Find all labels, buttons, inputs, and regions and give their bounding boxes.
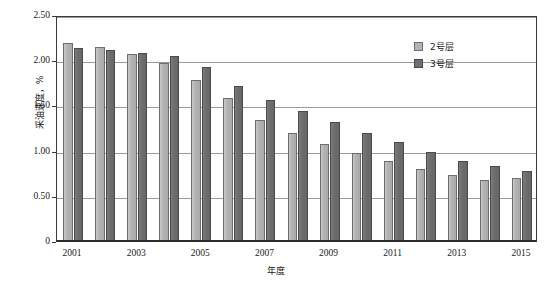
bar-2007-series1 bbox=[255, 120, 265, 241]
bar-2015-series2 bbox=[522, 171, 532, 241]
x-tick-label: 2007 bbox=[242, 248, 286, 258]
bar-2005-series1 bbox=[191, 80, 201, 241]
y-tick-label: 0 bbox=[8, 237, 50, 247]
y-tick-label: 2.00 bbox=[8, 56, 50, 66]
x-tick-label: 2001 bbox=[50, 248, 94, 258]
bar-2007-series2 bbox=[266, 100, 276, 241]
bar-2008-series1 bbox=[288, 133, 298, 241]
x-tick-label: 2005 bbox=[178, 248, 222, 258]
legend-swatch-icon bbox=[414, 59, 423, 68]
x-tick-label: 2009 bbox=[307, 248, 351, 258]
legend-item-label: 3号层 bbox=[430, 57, 454, 70]
bar-2010-series1 bbox=[352, 153, 362, 241]
bar-2003-series1 bbox=[127, 54, 137, 241]
bar-2011-series1 bbox=[384, 161, 394, 241]
y-tick-label: 0.50 bbox=[8, 192, 50, 202]
legend-swatch-icon bbox=[414, 42, 423, 51]
bar-2002-series1 bbox=[95, 47, 105, 241]
bar-2006-series2 bbox=[234, 86, 244, 241]
bar-2004-series2 bbox=[170, 56, 180, 241]
bar-2013-series1 bbox=[448, 175, 458, 241]
bar-2010-series2 bbox=[362, 133, 372, 241]
bar-2014-series2 bbox=[490, 166, 500, 241]
bar-2013-series2 bbox=[458, 161, 468, 241]
x-tick-label: 2013 bbox=[435, 248, 479, 258]
bar-2001-series1 bbox=[63, 43, 73, 241]
bar-2011-series2 bbox=[394, 142, 404, 241]
bar-2012-series2 bbox=[426, 152, 436, 241]
bar-2003-series2 bbox=[138, 53, 148, 241]
bar-2014-series1 bbox=[480, 180, 490, 241]
x-tick-label: 2011 bbox=[371, 248, 415, 258]
bar-2008-series2 bbox=[298, 111, 308, 241]
bar-2009-series1 bbox=[320, 144, 330, 241]
bar-2005-series2 bbox=[202, 67, 212, 241]
bar-2006-series1 bbox=[223, 98, 233, 241]
bar-2002-series2 bbox=[106, 50, 116, 241]
y-tick-label: 1.50 bbox=[8, 101, 50, 111]
legend-item-label: 2号层 bbox=[430, 40, 454, 53]
bar-2004-series1 bbox=[159, 63, 169, 241]
bar-2012-series1 bbox=[416, 169, 426, 241]
bar-chart: 采油速度，% 00.501.001.502.002.50 20012003200… bbox=[0, 0, 551, 295]
y-tick-label: 2.50 bbox=[8, 11, 50, 21]
x-tick-label: 2003 bbox=[114, 248, 158, 258]
x-axis-baseline bbox=[57, 240, 536, 241]
legend-item-0[interactable]: 2号层 bbox=[414, 38, 510, 55]
x-tick-label: 2015 bbox=[499, 248, 543, 258]
bar-2009-series2 bbox=[330, 122, 340, 241]
legend-item-1[interactable]: 3号层 bbox=[414, 55, 510, 72]
y-tick-label: 1.00 bbox=[8, 147, 50, 157]
chart-legend: 2号层 3号层 bbox=[414, 38, 510, 72]
x-axis-title: 年度 bbox=[0, 264, 551, 277]
y-tick-mark bbox=[52, 242, 56, 243]
bar-2001-series2 bbox=[74, 48, 84, 241]
bar-2015-series1 bbox=[512, 178, 522, 241]
